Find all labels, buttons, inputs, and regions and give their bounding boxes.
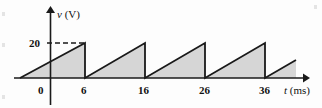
x-tick-label-0: 0 [38,85,44,96]
y-axis-variable: v [57,8,62,20]
x-tick-label-16: 16 [138,85,149,96]
x-axis-unit: (ms) [290,84,310,96]
x-axis-title: t (ms) [284,85,310,96]
y-axis-title: v (V) [57,9,80,20]
x-tick-label-36: 36 [259,85,270,96]
waveform-figure: 20 v (V) 0 6 16 26 36 t (ms) [0,0,322,108]
x-axis-arrowhead [303,74,310,83]
y-axis-arrowhead [46,6,55,13]
plot-canvas [0,0,322,108]
x-tick-label-6: 6 [81,85,87,96]
y-axis-unit: (V) [65,8,80,20]
x-tick-label-26: 26 [199,85,210,96]
x-axis-variable: t [284,84,287,96]
y-tick-label-20: 20 [29,38,40,49]
